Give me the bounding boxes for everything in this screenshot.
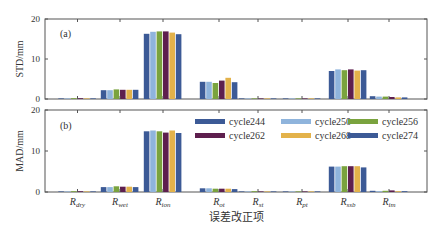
y-axis-label-b: MAD/mm: [14, 130, 25, 172]
bar-cycle250-R_st: [245, 191, 251, 192]
bar-cycle262-R_im: [389, 190, 395, 192]
bar-cycle250-R_ot: [206, 188, 212, 192]
bar-cycle268-R_ion: [169, 33, 175, 99]
legend-swatch-cycle268: [281, 133, 311, 138]
legend-label-cycle262: cycle262: [229, 130, 265, 141]
bar-cycle274-R_pt: [315, 98, 321, 99]
bar-cycle268-R_ssb: [354, 71, 360, 99]
bar-cycle256-R_pt: [296, 98, 302, 99]
legend-swatch-cycle244: [195, 119, 225, 124]
x-label-st: Rst: [252, 196, 265, 209]
bar-cycle262-R_ssb: [348, 166, 354, 192]
bar-cycle256-R_ion: [157, 31, 163, 99]
x-axis-title: 误差改正项: [209, 210, 264, 223]
legend-swatch-cycle262: [195, 133, 225, 138]
bar-cycle262-R_pt: [302, 98, 308, 99]
bar-cycle250-R_pt: [289, 98, 295, 99]
bar-cycle256-R_pt: [296, 191, 302, 192]
bar-cycle256-R_ssb: [342, 166, 348, 192]
y-axis-label-a: STD/mm: [14, 40, 25, 77]
bar-cycle250-R_st: [245, 98, 251, 99]
bar-cycle250-R_ssb: [335, 167, 341, 192]
bar-cycle250-R_ot: [206, 82, 212, 99]
bar-cycle250-R_ion: [150, 32, 156, 99]
bar-cycle274-R_ssb: [361, 167, 367, 192]
bar-cycle244-R_ssb: [329, 71, 335, 99]
legend-label-cycle256: cycle256: [382, 116, 418, 127]
bar-cycle274-R_dry: [90, 98, 96, 99]
bar-cycle274-R_wet: [133, 90, 139, 99]
bar-cycle256-R_dry: [71, 98, 77, 99]
panel-b-label: (b): [60, 120, 72, 132]
bar-cycle268-R_st: [264, 191, 270, 192]
bar-cycle244-R_pt: [283, 98, 289, 99]
bar-cycle262-R_pt: [302, 191, 308, 192]
bar-cycle268-R_ot: [225, 189, 231, 192]
legend-label-cycle244: cycle244: [229, 116, 265, 127]
bar-cycle244-R_im: [370, 96, 376, 99]
bar-cycle274-R_wet: [133, 187, 139, 192]
bar-cycle262-R_st: [258, 98, 264, 99]
bar-cycle268-R_ssb: [354, 166, 360, 192]
bar-cycle262-R_ssb: [348, 69, 354, 99]
bar-cycle250-R_pt: [289, 191, 295, 192]
bar-cycle250-R_ssb: [335, 69, 341, 99]
x-label-ion: Rion: [154, 196, 171, 209]
bar-cycle250-R_im: [376, 191, 382, 192]
bar-cycle244-R_im: [370, 191, 376, 192]
bar-cycle250-R_im: [376, 97, 382, 99]
panel-b: (b) 20 10 0 MAD/mm cycle244cycle250cycle…: [14, 105, 427, 197]
bar-cycle256-R_st: [252, 191, 258, 192]
bar-cycle244-R_ot: [200, 82, 206, 99]
bar-cycle274-R_ssb: [361, 70, 367, 99]
bar-cycle268-R_wet: [126, 90, 132, 99]
bar-cycle262-R_ion: [163, 31, 169, 99]
bar-cycle256-R_im: [383, 191, 389, 192]
bar-cycle256-R_wet: [114, 186, 120, 192]
bar-chart: (a) 20 10 0 STD/mm (b) 20 10 0 MAD/mm cy…: [0, 0, 443, 231]
bar-cycle256-R_im: [383, 97, 389, 99]
legend-label-cycle274: cycle274: [382, 130, 418, 141]
bar-cycle268-R_dry: [84, 191, 90, 192]
y-tick-a-20: 20: [31, 14, 41, 24]
bar-cycle250-R_dry: [65, 98, 71, 99]
bar-cycle244-R_dry: [58, 98, 64, 99]
bar-cycle268-R_pt: [308, 191, 314, 192]
bar-cycle256-R_ot: [213, 83, 219, 99]
bar-cycle274-R_im: [402, 191, 408, 192]
bar-cycle250-R_dry: [65, 191, 71, 192]
bar-cycle244-R_wet: [101, 90, 107, 99]
bar-cycle244-R_ion: [144, 131, 150, 192]
bar-cycle244-R_ssb: [329, 167, 335, 192]
bar-cycle250-R_ion: [150, 131, 156, 193]
bar-cycle244-R_dry: [58, 191, 64, 192]
bar-cycle256-R_st: [252, 98, 258, 99]
bar-cycle250-R_wet: [107, 90, 113, 99]
panel-a: (a) 20 10 0 STD/mm: [14, 14, 427, 104]
bar-cycle244-R_ion: [144, 34, 150, 99]
legend-label-cycle268: cycle268: [315, 130, 351, 141]
bar-cycle262-R_wet: [120, 187, 126, 192]
bar-cycle268-R_ot: [225, 78, 231, 99]
bar-cycle274-R_ot: [232, 82, 238, 99]
legend-swatch-cycle250: [281, 119, 311, 124]
bar-cycle268-R_im: [395, 191, 401, 192]
x-label-dry: Rdry: [69, 196, 86, 209]
bar-cycle274-R_im: [402, 97, 408, 99]
y-tick-b-10: 10: [31, 146, 41, 156]
bar-cycle274-R_ot: [232, 189, 238, 192]
bar-cycle250-R_wet: [107, 187, 113, 192]
bar-cycle256-R_ot: [213, 189, 219, 192]
bar-cycle262-R_dry: [78, 191, 84, 192]
bar-cycle268-R_pt: [308, 98, 314, 99]
legend: cycle244cycle250cycle256cycle262cycle268…: [195, 116, 418, 141]
bar-cycle262-R_st: [258, 191, 264, 192]
bar-cycle274-R_pt: [315, 191, 321, 192]
bar-cycle262-R_ot: [219, 81, 225, 99]
y-tick-b-0: 0: [36, 187, 41, 197]
bar-cycle274-R_dry: [90, 191, 96, 192]
x-label-im: Rim: [381, 196, 395, 209]
legend-swatch-cycle274: [348, 133, 378, 138]
bar-cycle256-R_wet: [114, 89, 120, 99]
bar-cycle256-R_ion: [157, 131, 163, 192]
